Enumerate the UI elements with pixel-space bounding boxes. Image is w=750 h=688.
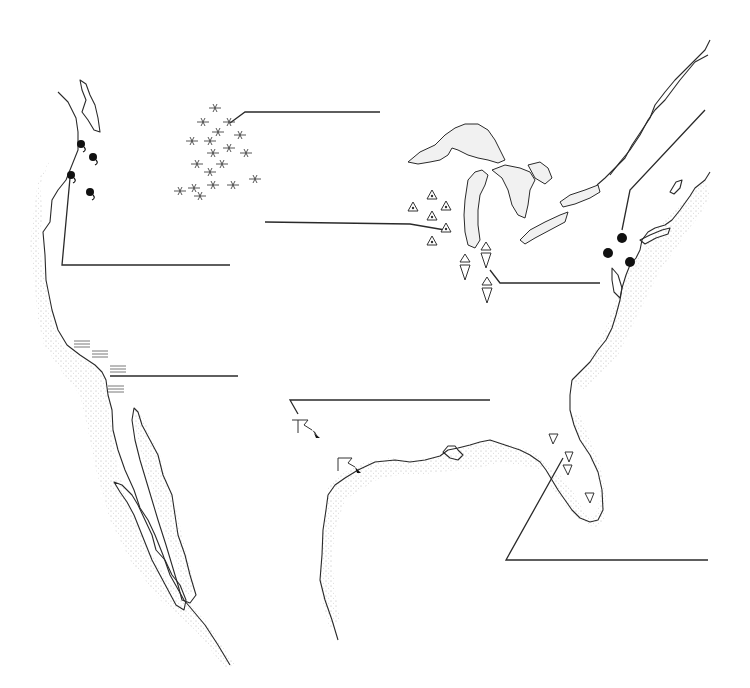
marker-insect [204, 168, 216, 176]
marker-insect [223, 144, 235, 152]
marker-insect [207, 181, 219, 189]
lake-superior [408, 124, 505, 164]
marker-inverted-triangle [585, 493, 594, 503]
callout-indiana-ohio [490, 270, 600, 283]
callout-florida [506, 458, 708, 560]
callout-midwest [265, 222, 445, 230]
marker-triangle-dot [441, 223, 451, 232]
west-coast [30, 80, 235, 668]
marker-insect [249, 175, 261, 183]
gulf-coast [320, 440, 546, 640]
east-coast [572, 172, 710, 390]
marker-insect [234, 131, 246, 139]
callout-northern-plains [230, 112, 380, 123]
marker-inverted-triangle [563, 465, 572, 475]
marker-insect [174, 187, 186, 195]
marker-group-indiana-ohio [460, 242, 492, 303]
marker-group-texas [292, 420, 361, 473]
marker-group-pacific-northwest [67, 140, 97, 200]
lake-ontario [560, 185, 600, 207]
lake-michigan [464, 170, 488, 248]
marker-insect [209, 104, 221, 112]
marker-insect [197, 118, 209, 126]
marker-group-midwest [408, 190, 451, 245]
florida-peninsula [545, 380, 606, 528]
marker-circle [617, 233, 627, 243]
marker-triangle-dot [408, 202, 418, 211]
marker-hourglass [460, 254, 470, 280]
marker-hourglass [482, 277, 492, 303]
marker-group-northern-plains [174, 104, 261, 200]
marker-insect [227, 181, 239, 189]
marker-insect [191, 160, 203, 168]
marker-insect [207, 149, 219, 157]
great-lakes [408, 124, 600, 248]
callout-texas [290, 400, 490, 414]
marker-dashes [74, 341, 90, 347]
marker-triangle-dot [427, 190, 437, 199]
marker-insect [204, 137, 216, 145]
marker-dashes [108, 386, 124, 392]
marker-insect [188, 184, 200, 192]
marker-group-northeast [603, 233, 635, 267]
marker-insect [216, 160, 228, 168]
marker-circle-tail [86, 188, 94, 200]
lake-huron [492, 165, 535, 218]
marker-flag-arrow [292, 420, 320, 438]
marker-dashes [110, 366, 126, 372]
marker-circle [603, 248, 613, 258]
marker-circle [625, 257, 635, 267]
lake-erie [520, 212, 568, 244]
marker-inverted-triangle [549, 434, 558, 444]
marker-hourglass [481, 242, 491, 268]
marker-triangle-dot [427, 236, 437, 245]
us-outline-map [0, 0, 750, 688]
marker-insect [212, 128, 224, 136]
st-lawrence-river [597, 40, 710, 185]
marker-inverted-triangle [565, 452, 573, 462]
marker-dashes [92, 351, 108, 357]
marker-insect [186, 137, 198, 145]
marker-triangle-dot [427, 211, 437, 220]
marker-insect [223, 118, 235, 126]
marker-circle-tail [89, 153, 97, 165]
marker-triangle-dot [441, 201, 451, 210]
marker-insect [194, 192, 206, 200]
marker-circle-tail [67, 171, 75, 183]
marker-insect [240, 149, 252, 157]
